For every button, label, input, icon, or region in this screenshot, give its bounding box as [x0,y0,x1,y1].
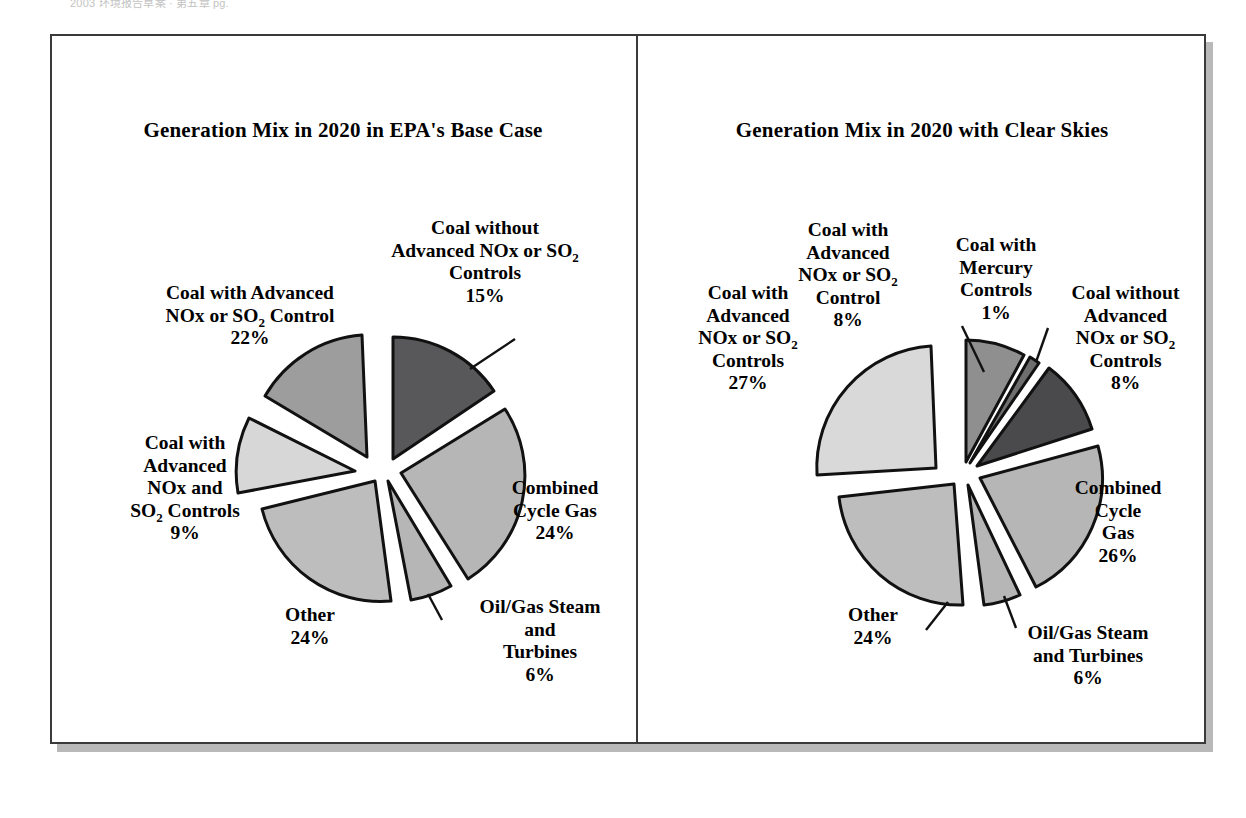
panel-clear-skies: Generation Mix in 2020 with Clear Skies [638,34,1206,744]
pie-slice-cs-other[interactable] [839,484,963,605]
pie-label-cs-coal-without: Coal without Advanced NOx or SO2 Control… [1038,282,1213,395]
running-header: 2003 环境报告草案 · 第五章 pg. [70,0,590,10]
pie-label-cs-other: Other 24% [798,604,948,649]
panel-base-case: Generation Mix in 2020 in EPA's Base Cas… [50,34,636,744]
pie-label-combined-cycle-gas: Combined Cycle Gas 24% [465,477,645,545]
pie-label-coal-advanced-nox-and-so2: Coal with Advanced NOx and SO2 Controls … [85,432,285,545]
pie-label-cs-combined-cycle-gas: Combined Cycle Gas 26% [1028,477,1208,567]
pie-label-oil-gas-steam-turbines: Oil/Gas Steam and Turbines 6% [435,596,645,686]
pie-label-coal-advanced-nox-or-so2: Coal with Advanced NOx or SO2 Control 22… [105,282,395,350]
pie-label-other: Other 24% [235,604,385,649]
pie-label-cs-coal-advanced-controls: Coal with Advanced NOx or SO2 Controls 2… [638,282,858,395]
figure-stage: 2003 环境报告草案 · 第五章 pg. Generation Mix in … [0,0,1246,818]
leader-line-coal-without [470,339,515,369]
pie-label-cs-oil-gas-steam-turbines: Oil/Gas Steam and Turbines 6% [973,622,1203,690]
